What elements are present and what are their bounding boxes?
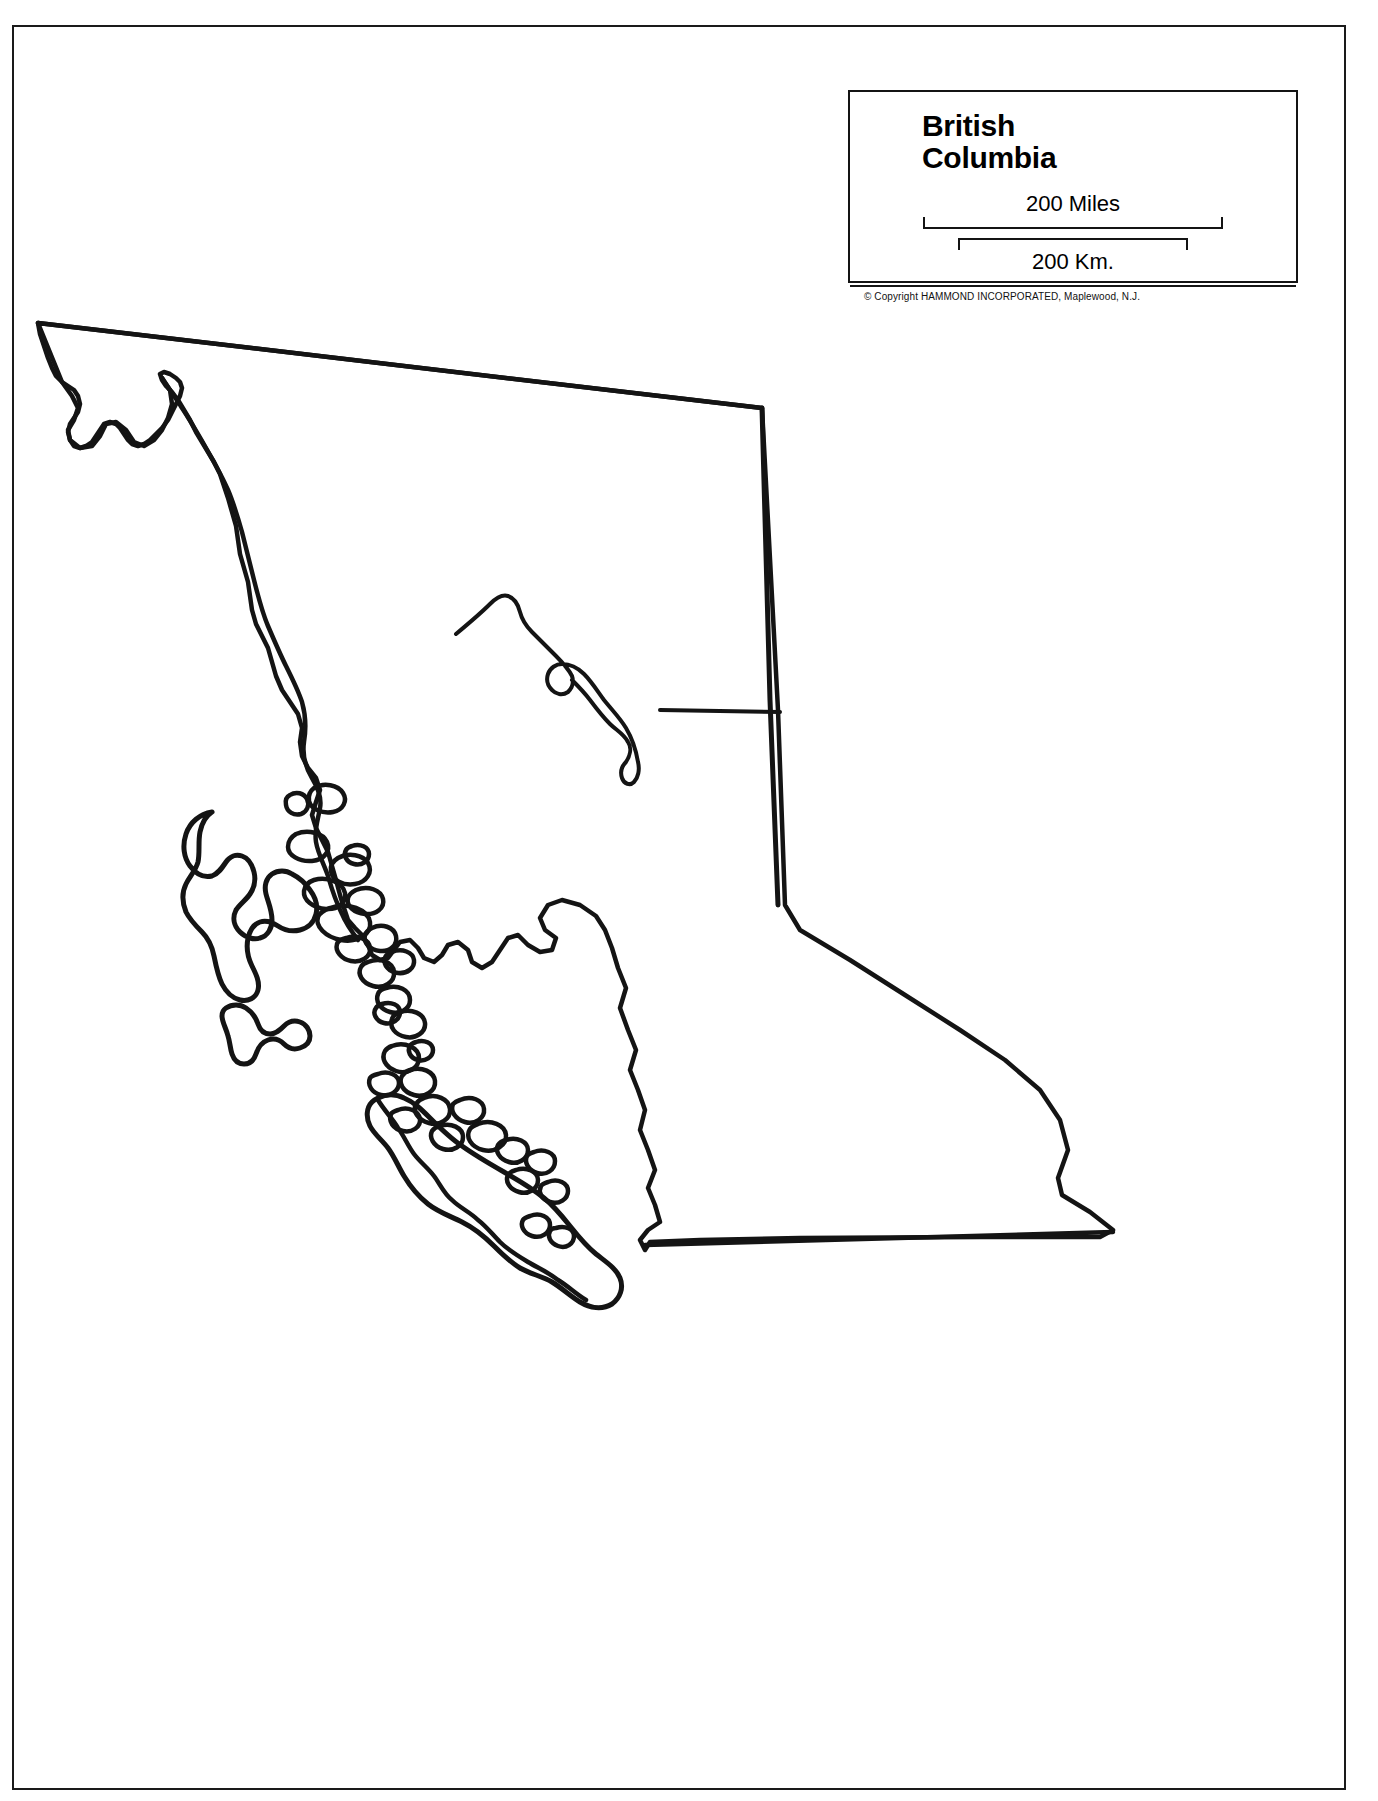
graham-island <box>183 812 317 1001</box>
scale-bar-miles-rule <box>923 217 1223 229</box>
copyright-notice: © Copyright HAMMOND INCORPORATED, Maplew… <box>850 287 1296 302</box>
island-small-20 <box>452 1098 484 1123</box>
island-small-9 <box>365 926 397 951</box>
vancouver-island <box>367 1095 621 1308</box>
mainland-outline <box>38 323 1113 1250</box>
island-small-13 <box>391 1011 425 1038</box>
northwest-panhandle <box>38 323 172 448</box>
island-small-4 <box>331 855 370 885</box>
island-small-15 <box>401 1069 435 1096</box>
map-title-line-1: British <box>922 110 1296 142</box>
williston-lake <box>456 595 639 784</box>
map-title: British Columbia <box>850 110 1296 175</box>
island-small-10 <box>360 960 394 987</box>
island-small-21 <box>468 1122 506 1150</box>
legend-box: British Columbia 200 Miles 200 Km. © Cop… <box>848 90 1298 283</box>
island-small-22 <box>497 1139 528 1163</box>
northern-border <box>38 323 762 408</box>
island-small-3 <box>288 832 328 861</box>
map-title-line-2: Columbia <box>922 142 1296 174</box>
scale-bar-km: 200 Km. <box>958 238 1188 273</box>
rocky-mountain-trench-line <box>660 710 780 712</box>
island-small-16 <box>369 1073 399 1096</box>
moresby-island <box>222 1005 310 1064</box>
scale-bar-km-label: 200 Km. <box>958 251 1188 273</box>
scale-bar-km-rule <box>958 238 1188 250</box>
island-small-26 <box>522 1215 550 1237</box>
scale-bar-miles: 200 Miles <box>923 193 1223 229</box>
map-page: British Columbia 200 Miles 200 Km. © Cop… <box>0 0 1378 1801</box>
island-small-2 <box>309 785 345 813</box>
island-small-7 <box>348 888 384 914</box>
scale-bar-miles-label: 200 Miles <box>923 193 1223 215</box>
island-small-1 <box>286 793 309 815</box>
